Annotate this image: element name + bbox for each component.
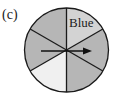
sector-label-blue: Blue: [69, 15, 94, 30]
spinner: Blue: [0, 0, 114, 95]
